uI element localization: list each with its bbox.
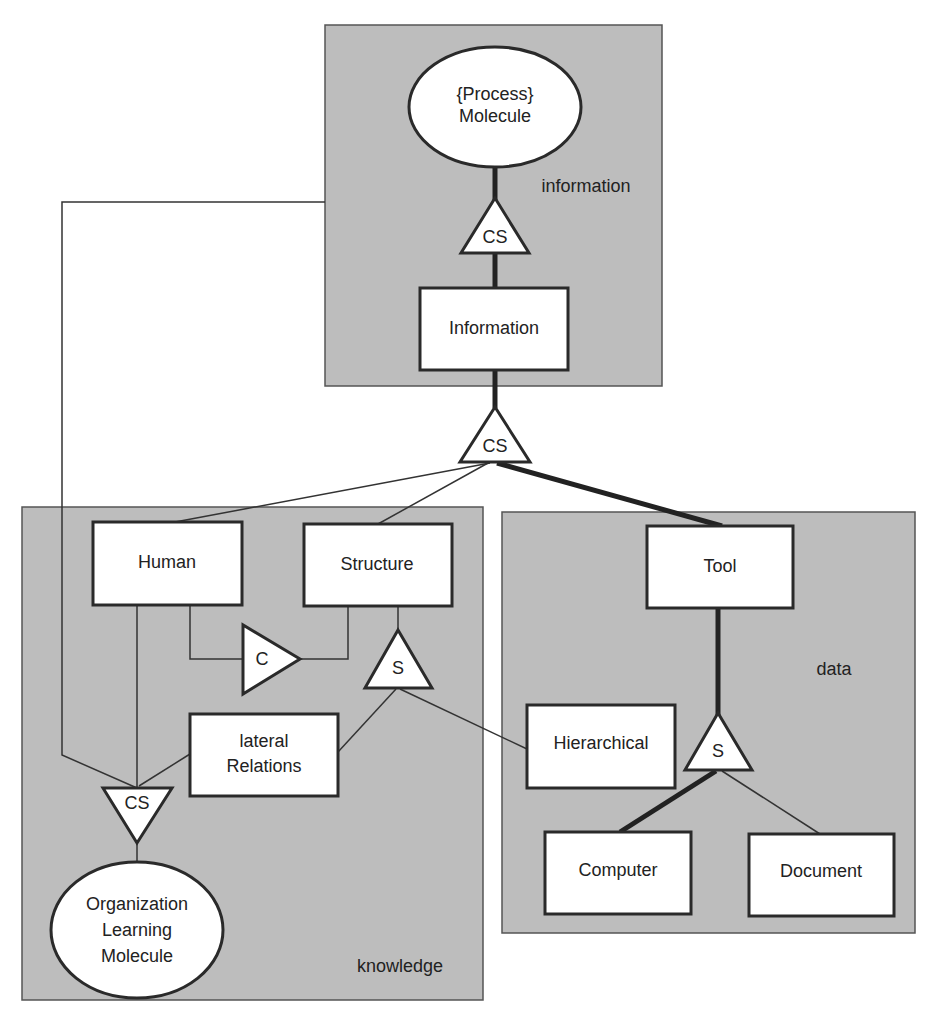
process-molecule-node: {Process} Molecule (409, 47, 581, 167)
human-label: Human (138, 552, 196, 572)
information-node: Information (420, 288, 568, 370)
cs-top-label: CS (482, 227, 507, 247)
org-learning-label-line2: Learning (102, 920, 172, 940)
tool-node: Tool (647, 526, 793, 608)
process-molecule-label-line1: {Process} (456, 84, 533, 104)
structure-label: Structure (340, 554, 413, 574)
hierarchical-label: Hierarchical (553, 733, 648, 753)
document-label: Document (780, 861, 862, 881)
lateral-relations-label-line1: lateral (239, 731, 288, 751)
document-node: Document (749, 834, 894, 916)
computer-label: Computer (578, 860, 657, 880)
hierarchical-node: Hierarchical (527, 705, 675, 788)
c-label: C (256, 649, 269, 669)
lateral-relations-node: lateral Relations (190, 714, 338, 796)
process-molecule-label-line2: Molecule (459, 106, 531, 126)
org-learning-molecule-node: Organization Learning Molecule (51, 862, 223, 998)
human-node: Human (93, 522, 242, 605)
structure-node: Structure (304, 524, 452, 606)
data-panel-label: data (816, 659, 852, 679)
tool-label: Tool (703, 556, 736, 576)
lateral-relations-label-line2: Relations (226, 756, 301, 776)
knowledge-panel-label: knowledge (357, 956, 443, 976)
org-learning-label-line1: Organization (86, 894, 188, 914)
cs-middle-label: CS (482, 436, 507, 456)
information-label: Information (449, 318, 539, 338)
cs-middle-connector: CS (460, 407, 530, 462)
computer-node: Computer (545, 832, 691, 914)
s-knowledge-label: S (392, 658, 404, 678)
organization-learning-diagram: information knowledge data {Process} Mol… (0, 0, 940, 1022)
org-learning-label-line3: Molecule (101, 946, 173, 966)
information-panel-label: information (541, 176, 630, 196)
s-data-label: S (712, 741, 724, 761)
cs-bottom-label: CS (124, 793, 149, 813)
